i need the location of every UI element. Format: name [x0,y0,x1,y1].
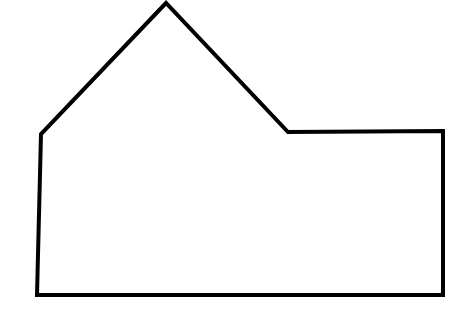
shape-figure [0,0,465,318]
drawing-canvas [0,0,465,318]
